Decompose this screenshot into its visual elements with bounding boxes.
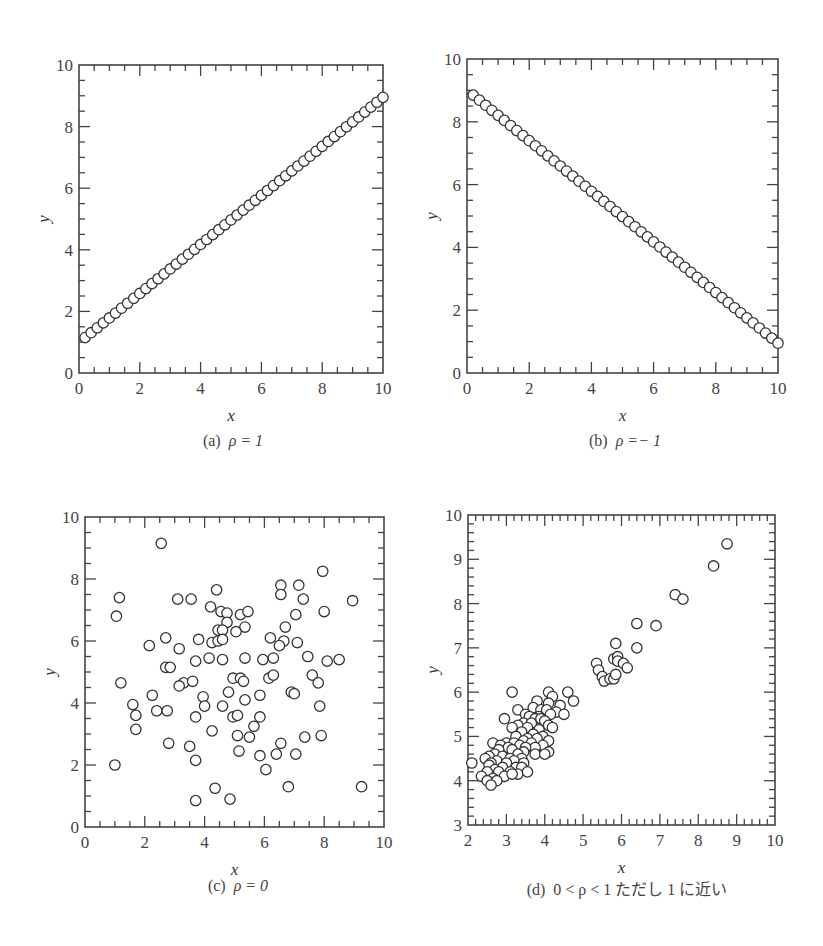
data-point-marker bbox=[291, 749, 301, 759]
y-tick-label: 5 bbox=[454, 727, 463, 746]
data-point-marker bbox=[708, 561, 718, 571]
data-point-marker bbox=[315, 701, 325, 711]
data-point-marker bbox=[678, 594, 688, 604]
x-tick-label: 5 bbox=[579, 831, 588, 850]
x-tick-label: 6 bbox=[260, 833, 269, 852]
data-point-marker bbox=[274, 640, 284, 650]
y-tick-label: 6 bbox=[65, 179, 74, 198]
data-point-marker bbox=[268, 670, 278, 680]
y-tick-label: 0 bbox=[453, 364, 462, 383]
x-tick-label: 2 bbox=[136, 379, 145, 398]
data-point-marker bbox=[559, 709, 569, 719]
data-point-marker bbox=[294, 580, 304, 590]
x-tick-label: 8 bbox=[318, 379, 327, 398]
data-point-marker bbox=[190, 795, 200, 805]
y-tick-label: 2 bbox=[453, 301, 462, 320]
data-point-marker bbox=[172, 594, 182, 604]
y-tick-label: 0 bbox=[65, 364, 74, 383]
data-point-marker bbox=[249, 721, 259, 731]
plot-panel-a: 02468100246810xy bbox=[34, 56, 392, 425]
caption-d-math: 0 < ρ < 1 ただし 1 に近い bbox=[553, 881, 727, 898]
data-point-marker bbox=[131, 724, 141, 734]
data-point-marker bbox=[322, 656, 332, 666]
y-tick-label: 4 bbox=[71, 694, 80, 713]
data-point-marker bbox=[611, 669, 621, 679]
data-point-marker bbox=[128, 699, 138, 709]
data-point-marker bbox=[217, 701, 227, 711]
x-tick-label: 10 bbox=[767, 831, 784, 850]
data-point-marker bbox=[289, 689, 299, 699]
y-tick-label: 8 bbox=[454, 595, 463, 614]
data-point-marker bbox=[199, 701, 209, 711]
data-point-marker bbox=[111, 611, 121, 621]
y-tick-label: 10 bbox=[56, 56, 73, 75]
data-point-marker bbox=[303, 651, 313, 661]
data-point-marker bbox=[184, 741, 194, 751]
data-point-marker bbox=[255, 690, 265, 700]
caption-c: (c) ρ = 0 bbox=[208, 877, 268, 895]
y-tick-label: 2 bbox=[71, 756, 80, 775]
data-point-marker bbox=[223, 687, 233, 697]
x-axis-label: x bbox=[618, 406, 627, 425]
y-axis-label: y bbox=[423, 666, 442, 676]
data-point-marker bbox=[522, 767, 532, 777]
data-point-marker bbox=[467, 758, 477, 768]
data-point-marker bbox=[144, 640, 154, 650]
data-point-marker bbox=[131, 710, 141, 720]
data-point-marker bbox=[507, 687, 517, 697]
y-axis-label: y bbox=[40, 668, 59, 678]
data-point-marker bbox=[190, 712, 200, 722]
plot-frame bbox=[85, 517, 384, 827]
plot-panel-b: 02468100246810xy bbox=[422, 50, 787, 425]
data-point-marker bbox=[198, 692, 208, 702]
x-tick-label: 3 bbox=[502, 831, 511, 850]
x-tick-label: 10 bbox=[770, 379, 787, 398]
y-tick-label: 10 bbox=[444, 50, 461, 69]
data-point-marker bbox=[217, 634, 227, 644]
data-point-marker bbox=[207, 726, 217, 736]
data-point-marker bbox=[258, 654, 268, 664]
data-point-marker bbox=[187, 676, 197, 686]
caption-a: (a) ρ = 1 bbox=[203, 432, 263, 450]
data-point-marker bbox=[632, 618, 642, 628]
data-point-marker bbox=[292, 637, 302, 647]
plot-panel-d: 2345678910345678910xy bbox=[423, 506, 784, 877]
data-point-marker bbox=[147, 690, 157, 700]
x-tick-label: 7 bbox=[656, 831, 665, 850]
data-point-marker bbox=[632, 643, 642, 653]
data-point-marker bbox=[152, 706, 162, 716]
data-point-marker bbox=[205, 602, 215, 612]
x-tick-label: 8 bbox=[712, 379, 721, 398]
data-point-marker bbox=[378, 92, 388, 102]
y-tick-label: 4 bbox=[454, 772, 463, 791]
data-point-marker bbox=[547, 722, 557, 732]
data-point-marker bbox=[186, 594, 196, 604]
data-point-marker bbox=[243, 606, 253, 616]
data-points bbox=[468, 90, 783, 348]
y-tick-label: 6 bbox=[454, 683, 463, 702]
caption-c-prefix: (c) bbox=[208, 877, 226, 894]
data-point-marker bbox=[316, 730, 326, 740]
data-point-marker bbox=[486, 780, 496, 790]
data-point-marker bbox=[507, 769, 517, 779]
data-point-marker bbox=[240, 695, 250, 705]
data-point-marker bbox=[204, 653, 214, 663]
y-tick-label: 6 bbox=[71, 632, 80, 651]
data-point-marker bbox=[291, 609, 301, 619]
data-point-marker bbox=[231, 627, 241, 637]
x-tick-label: 10 bbox=[376, 833, 393, 852]
data-point-marker bbox=[611, 638, 621, 648]
data-point-marker bbox=[114, 592, 124, 602]
caption-a-prefix: (a) bbox=[203, 432, 221, 449]
x-tick-label: 6 bbox=[649, 379, 658, 398]
x-tick-label: 4 bbox=[541, 831, 550, 850]
x-tick-label: 2 bbox=[525, 379, 534, 398]
x-tick-label: 2 bbox=[141, 833, 150, 852]
y-tick-label: 4 bbox=[453, 238, 462, 257]
data-point-marker bbox=[530, 749, 540, 759]
data-point-marker bbox=[356, 782, 366, 792]
data-point-marker bbox=[283, 782, 293, 792]
data-point-marker bbox=[622, 663, 632, 673]
data-point-marker bbox=[280, 622, 290, 632]
data-point-marker bbox=[240, 653, 250, 663]
